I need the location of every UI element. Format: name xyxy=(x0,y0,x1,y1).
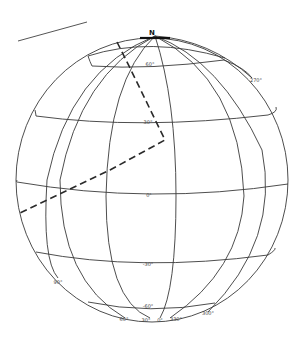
meridian-60 xyxy=(60,36,155,318)
lon-label-0: 0° xyxy=(157,317,163,323)
lat-label-minus-60: -60° xyxy=(143,303,154,309)
lat-label-30: 30° xyxy=(144,119,153,125)
lon-label-30: 30° xyxy=(142,317,151,323)
latitude-line-0 xyxy=(17,180,289,194)
lon-label-90: 90° xyxy=(54,279,63,285)
lon-label-330: 330° xyxy=(170,316,183,322)
meridian-0 xyxy=(155,36,176,318)
latitude-line-minus-30 xyxy=(36,248,275,263)
meridian-330 xyxy=(155,36,244,318)
pointer-line xyxy=(18,22,87,41)
meridian-90 xyxy=(46,36,155,278)
lon-label-270: 270° xyxy=(250,77,263,83)
route-dashed-path xyxy=(20,42,165,213)
latitude-line-arc-top xyxy=(88,46,225,58)
lat-label-60: 60° xyxy=(146,61,155,67)
meridian-30 xyxy=(106,36,155,318)
lon-label-300: 300° xyxy=(202,310,215,316)
globe-diagram: N 60° 30° 0° -30° -60° 90° 60° 30° 0° 33… xyxy=(0,0,300,342)
north-pole-label: N xyxy=(149,29,155,37)
lat-label-minus-30: -30° xyxy=(143,261,154,267)
lat-label-0: 0° xyxy=(146,192,152,198)
lon-label-60: 60° xyxy=(120,316,129,322)
